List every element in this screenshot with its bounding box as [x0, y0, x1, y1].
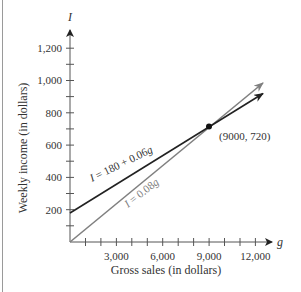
y-tick-label: 200 [46, 204, 63, 216]
y-tick-label: 1,000 [37, 74, 62, 86]
y-tick-label: 600 [46, 139, 63, 151]
equation-label-gray: I = 0.08g [121, 175, 161, 210]
x-tick-label: 3,000 [104, 250, 129, 262]
intersection-point [206, 124, 212, 130]
y-tick-label: 800 [46, 107, 63, 119]
equation-label-black: I = 180 + 0.06g [87, 143, 155, 184]
intersection-label: (9000, 720) [219, 130, 271, 143]
chart-canvas: 200 400 600 800 1,000 1,200 I Weekly inc… [0, 0, 301, 292]
x-variable-label: g [277, 235, 283, 249]
x-axis: 3,000 6,000 9,000 12,000 g Gross sales (… [70, 235, 283, 277]
y-variable-label: I [67, 10, 73, 24]
x-tick-label: 9,000 [197, 250, 222, 262]
y-axis: 200 400 600 800 1,000 1,200 I Weekly inc… [16, 10, 74, 242]
x-tick-label: 12,000 [240, 250, 271, 262]
line-series-gray [70, 83, 263, 242]
line-series-black [70, 94, 263, 214]
y-axis-title: Weekly income (in dollars) [16, 83, 30, 214]
x-tick-label: 6,000 [150, 250, 175, 262]
y-tick-label: 1,200 [37, 42, 62, 54]
x-axis-title: Gross sales (in dollars) [111, 263, 221, 277]
y-tick-label: 400 [46, 171, 63, 183]
